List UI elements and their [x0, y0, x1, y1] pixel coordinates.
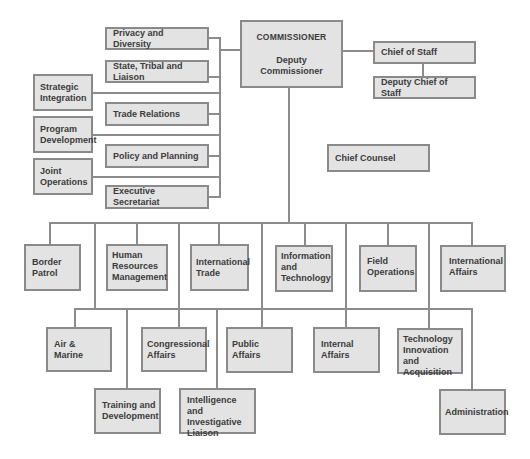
privacy-diversity-box: Privacy and Diversity [105, 27, 209, 50]
drop-field-ops [387, 222, 389, 245]
drop-long-a [94, 222, 96, 310]
commissioner-box: COMMISSIONER Deputy Commissioner [240, 20, 343, 88]
connector-chief-to-deputy [422, 62, 424, 77]
org-chart: COMMISSIONER Deputy Commissioner Chief o… [0, 0, 530, 459]
state-tribal-liaison-box: State, Tribal and Liaison [105, 60, 209, 83]
chief-of-staff-box: Chief of Staff [373, 41, 476, 64]
chief-counsel-box: Chief Counsel [327, 144, 430, 172]
human-resources-management-box: Human Resources Management [106, 244, 168, 291]
connector-strategic [91, 92, 221, 94]
international-affairs-box: International Affairs [440, 245, 506, 292]
air-marine-box: Air & Marine [46, 327, 112, 372]
intelligence-investigative-liaison-box: Intelligence and Investigative Liaison [179, 388, 256, 434]
commissioner-title: COMMISSIONER [257, 32, 327, 43]
connector-program-dev [91, 134, 221, 136]
international-trade-box: International Trade [190, 244, 249, 291]
public-affairs-box: Public Affairs [226, 327, 293, 373]
technology-innovation-acquisition-box: Technology Innovation and Acquisition [397, 328, 463, 374]
connector-trade-relations [208, 113, 221, 115]
connector-bus-row2 [74, 308, 473, 310]
policy-planning-box: Policy and Planning [105, 144, 209, 168]
drop-intelligence [216, 308, 218, 389]
drop-info-tech [304, 222, 306, 245]
drop-administration [471, 308, 473, 390]
connector-main-trunk [288, 87, 290, 224]
drop-training [126, 308, 128, 389]
connector-root-to-left-spine [219, 49, 241, 51]
border-patrol-box: Border Patrol [24, 244, 81, 291]
connector-exec-sec [208, 196, 221, 198]
drop-long-tech-innovation [428, 222, 430, 329]
deputy-chief-of-staff-box: Deputy Chief of Staff [373, 76, 476, 99]
drop-air-marine [74, 308, 76, 328]
connector-policy [208, 155, 221, 157]
program-development-box: Program Development [33, 116, 93, 153]
connector-state-tribal [208, 76, 221, 78]
executive-secretariat-box: Executive Secretariat [105, 185, 209, 209]
joint-operations-box: Joint Operations [33, 158, 93, 195]
congressional-affairs-box: Congressional Affairs [141, 327, 207, 372]
drop-long-congressional [178, 222, 180, 328]
drop-intl-trade [218, 222, 220, 245]
deputy-commissioner-label: Deputy Commissioner [248, 55, 335, 77]
administration-box: Administration [439, 389, 506, 435]
strategic-integration-box: Strategic Integration [33, 74, 93, 111]
drop-intl-affairs [471, 222, 473, 245]
information-technology-box: Information and Technology [275, 245, 333, 292]
trade-relations-box: Trade Relations [105, 102, 209, 126]
internal-affairs-box: Internal Affairs [313, 327, 380, 373]
connector-privacy [208, 37, 221, 39]
connector-joint-ops [91, 176, 221, 178]
drop-long-internal-affairs [345, 222, 347, 328]
drop-border-patrol [49, 222, 51, 245]
connector-left-spine [219, 37, 221, 198]
training-development-box: Training and Development [94, 388, 161, 434]
drop-hr [136, 222, 138, 245]
connector-root-to-chief-of-staff [341, 50, 374, 52]
field-operations-box: Field Operations [359, 245, 417, 292]
drop-long-public-affairs [261, 222, 263, 328]
